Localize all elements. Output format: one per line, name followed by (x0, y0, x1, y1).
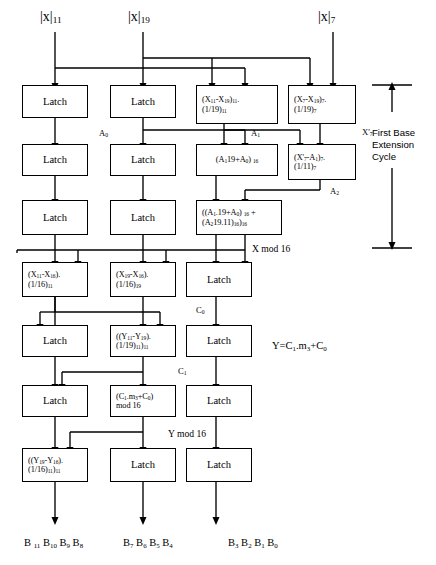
mul-r1c3-label: (X11-X19)11.(1/19)11 (197, 95, 277, 114)
mul-r2c4[interactable]: (X'7-A1)7.(1/11)7 (288, 144, 356, 180)
mul-r5c2-label: ((Y11-Y19).(1/19)11)11 (111, 332, 175, 351)
latch-r3c1[interactable]: Latch (22, 200, 88, 235)
latch-r7c3-label: Latch (205, 459, 233, 471)
sum-r3c3-label: ((A1.19+A0) 16 +(A219.11)16)16 (197, 208, 281, 227)
latch-r5c1-label: Latch (41, 335, 69, 347)
mul-r1c4[interactable]: (X7-X19)7.(1/19)7 (288, 85, 356, 124)
mul-r5c2[interactable]: ((Y11-Y19).(1/19)11)11 (110, 325, 176, 357)
input-x-mod-7-label: |x|7 (318, 8, 335, 25)
signal-a0-label: A0 (99, 128, 108, 138)
annotation-first-base-extension-cycle: First Base Extension Cycle (372, 127, 415, 163)
latch-r6c1-label: Latch (41, 395, 69, 407)
mul-r4c2-label: (X19-X16).(1/16)19 (111, 270, 175, 289)
latch-r5c1[interactable]: Latch (22, 325, 88, 357)
latch-r7c2[interactable]: Latch (110, 448, 176, 482)
add-r2c3[interactable]: (A119+A0) 16 (196, 144, 278, 176)
latch-r6c1[interactable]: Latch (22, 385, 88, 417)
latch-r1c2-label: Latch (129, 96, 157, 108)
output-bits-3-0: B3 B2 B1 B0 (228, 537, 278, 549)
mul-r7c1-label: ((Y19-Y16).(1/16)11)11 (23, 456, 87, 475)
latch-r1c1[interactable]: Latch (22, 85, 88, 118)
add-r2c3-label: (A119+A0) 16 (214, 155, 260, 164)
signal-x7-prime-label: X'7 (362, 127, 373, 137)
signal-a1-label: A1 (251, 128, 260, 138)
cycle-line-2: Extension (372, 139, 414, 150)
latch-r5c3[interactable]: Latch (186, 325, 252, 357)
cycle-line-3: Cycle (372, 151, 396, 162)
annotation-y-equation: Y=C1.m3+C0 (272, 340, 327, 352)
latch-r4c3[interactable]: Latch (186, 262, 252, 297)
bus-y-mod-16-label: Y mod 16 (168, 428, 206, 439)
mul-r4c2[interactable]: (X19-X16).(1/16)19 (110, 262, 176, 297)
bus-x-mod-16-label: X mod 16 (252, 243, 290, 254)
sum-r3c3[interactable]: ((A1.19+A0) 16 +(A219.11)16)16 (196, 200, 282, 235)
latch-r7c2-label: Latch (129, 459, 157, 471)
output-bits-11-8: B 11 B10 B9 B8 (24, 537, 83, 549)
input-x-mod-19-label: |x|19 (128, 8, 150, 25)
mul-r4c1[interactable]: (X11-X16).(1/16)11 (22, 262, 88, 297)
latch-r2c1[interactable]: Latch (22, 144, 88, 176)
mul-r4c1-label: (X11-X16).(1/16)11 (23, 270, 87, 289)
mul-r1c4-label: (X7-X19)7.(1/19)7 (289, 95, 355, 114)
signal-c0-label: C0 (196, 305, 205, 315)
output-bits-7-4: B7 B6 B5 B4 (123, 537, 173, 549)
rns-base-extension-diagram: |x|11 |x|19 |x|7 Latch Latch (X11-X19)11… (0, 0, 436, 565)
latch-r3c2-label: Latch (129, 212, 157, 224)
latch-r1c1-label: Latch (41, 96, 69, 108)
mul-r7c1[interactable]: ((Y19-Y16).(1/16)11)11 (22, 448, 88, 482)
latch-r5c3-label: Latch (205, 335, 233, 347)
latch-r2c2[interactable]: Latch (110, 144, 176, 176)
signal-c1-label: C1 (178, 366, 187, 376)
latch-r1c2[interactable]: Latch (110, 85, 176, 118)
mod-r6c2-label: (C1.m3+C0)mod 16 (111, 392, 175, 411)
mul-r1c3[interactable]: (X11-X19)11.(1/19)11 (196, 85, 278, 124)
latch-r3c2[interactable]: Latch (110, 200, 176, 235)
latch-r6c3[interactable]: Latch (186, 385, 252, 417)
latch-r3c1-label: Latch (41, 212, 69, 224)
latch-r2c2-label: Latch (129, 154, 157, 166)
signal-a2-label: A2 (330, 186, 339, 196)
latch-r6c3-label: Latch (205, 395, 233, 407)
mod-r6c2[interactable]: (C1.m3+C0)mod 16 (110, 385, 176, 417)
latch-r7c3[interactable]: Latch (186, 448, 252, 482)
latch-r2c1-label: Latch (41, 154, 69, 166)
mul-r2c4-label: (X'7-A1)7.(1/11)7 (289, 153, 355, 172)
cycle-line-1: First Base (372, 127, 415, 138)
latch-r4c3-label: Latch (205, 274, 233, 286)
input-x-mod-11-label: |x|11 (40, 8, 62, 25)
